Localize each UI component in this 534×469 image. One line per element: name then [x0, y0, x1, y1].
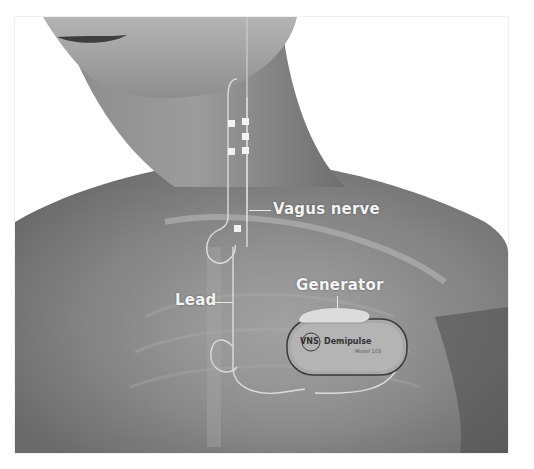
label-generator: Generator	[296, 276, 384, 294]
device-brand-vns: VNS	[300, 337, 319, 346]
device-brand-demipulse: Demipulse	[324, 337, 372, 346]
device-model: Model 103	[355, 348, 381, 354]
label-lead: Lead	[175, 291, 216, 309]
electrode-5	[242, 147, 249, 154]
generator-leader	[337, 296, 338, 310]
electrode-1	[228, 120, 235, 127]
electrode-2	[242, 118, 249, 125]
label-vagus-nerve: Vagus nerve	[273, 200, 380, 218]
vagus-nerve-leader	[249, 210, 271, 211]
electrode-3	[242, 133, 249, 140]
anchor-tether	[234, 225, 241, 232]
lead-leader	[211, 302, 233, 303]
illustration-frame: VNS Demipulse Model 103 Vagus nerve Gene…	[14, 16, 509, 454]
electrode-4	[228, 148, 235, 155]
anatomy-illustration	[15, 17, 508, 453]
